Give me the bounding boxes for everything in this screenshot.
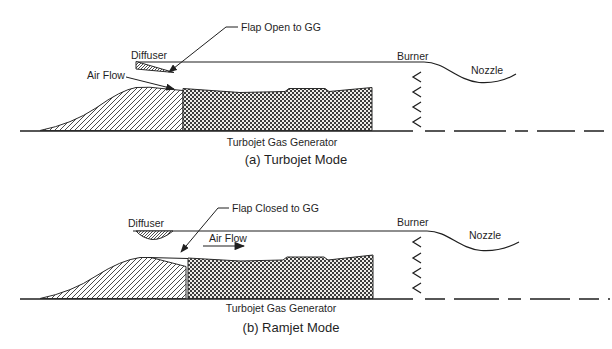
gas-generator-body-b — [188, 255, 373, 299]
gas-generator-body-a — [183, 88, 372, 131]
cowl-nozzle-contour-a — [137, 62, 516, 83]
caption-b: (b) Ramjet Mode — [243, 320, 340, 335]
air-flow-label-a: Air Flow — [87, 69, 125, 81]
chevron-icon — [413, 253, 421, 263]
chevron-icon — [413, 237, 421, 247]
inlet-ramp-b — [40, 258, 186, 299]
chevron-icon — [413, 72, 421, 82]
chevron-icon — [413, 268, 421, 278]
gas-generator-label-a: Turbojet Gas Generator — [227, 136, 338, 148]
diffuser-label-a: Diffuser — [131, 49, 167, 61]
diffuser-crescent — [136, 231, 173, 240]
diagram-b-ramjet-mode: Flap Closed to GG Diffuser Air Flow Burn… — [20, 202, 610, 335]
flap-open-wedge — [136, 62, 174, 73]
burner-label-b: Burner — [397, 216, 429, 228]
flap-open-label: Flap Open to GG — [241, 21, 321, 33]
flame-holder-chevrons-a — [413, 72, 421, 127]
engine-mode-figure: Flap Open to GG Diffuser Air Flow Burner… — [0, 0, 612, 349]
nozzle-label-b: Nozzle — [469, 229, 501, 241]
chevron-icon — [413, 102, 421, 112]
chevron-icon — [413, 117, 421, 127]
gas-generator-label-b: Turbojet Gas Generator — [226, 302, 337, 314]
chevron-icon — [413, 87, 421, 97]
nozzle-label-a: Nozzle — [471, 64, 503, 76]
inlet-ramp-a — [40, 87, 183, 130]
flame-holder-chevrons-b — [413, 237, 421, 293]
figure-canvas: Flap Open to GG Diffuser Air Flow Burner… — [0, 0, 612, 349]
diagram-a-turbojet-mode: Flap Open to GG Diffuser Air Flow Burner… — [20, 21, 610, 167]
flap-closed-label: Flap Closed to GG — [232, 202, 319, 214]
caption-a: (a) Turbojet Mode — [245, 152, 348, 167]
burner-label-a: Burner — [397, 50, 429, 62]
diffuser-label-b: Diffuser — [128, 217, 164, 229]
flap-open-leader-arrow — [169, 27, 238, 72]
air-flow-label-b: Air Flow — [209, 232, 247, 244]
chevron-icon — [413, 283, 421, 293]
